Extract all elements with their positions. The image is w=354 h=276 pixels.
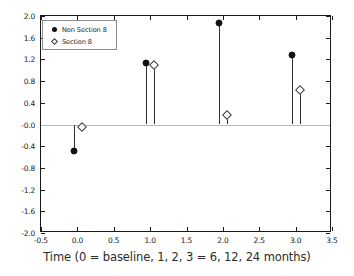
y-tick bbox=[41, 59, 45, 60]
x-tick-top bbox=[150, 16, 151, 20]
x-axis-title: Time (0 = baseline, 1, 2, 3 = 6, 12, 24 … bbox=[0, 250, 354, 264]
legend-item-non-section-8: Non Section 8 bbox=[48, 24, 112, 35]
data-stem bbox=[146, 63, 147, 124]
data-stem bbox=[219, 23, 220, 125]
legend-item-section-8: Section 8 bbox=[48, 36, 112, 47]
x-tick-label: 0.0 bbox=[72, 236, 83, 245]
y-tick-label: -2.0 bbox=[21, 229, 35, 238]
x-tick-top bbox=[187, 16, 188, 20]
x-tick-label: 0.5 bbox=[108, 236, 119, 245]
y-tick-right bbox=[326, 168, 330, 169]
chart-legend: Non Section 8 Section 8 bbox=[42, 20, 117, 50]
x-tick bbox=[41, 227, 42, 231]
x-tick-top bbox=[332, 16, 333, 20]
y-tick bbox=[41, 211, 45, 212]
y-tick-label: 1.6 bbox=[24, 33, 35, 42]
x-tick bbox=[259, 227, 260, 231]
x-tick bbox=[187, 227, 188, 231]
x-tick bbox=[114, 227, 115, 231]
data-stem bbox=[300, 90, 301, 124]
y-tick bbox=[41, 233, 45, 234]
x-tick bbox=[296, 227, 297, 231]
y-tick-right bbox=[326, 59, 330, 60]
x-tick-label: -0.5 bbox=[34, 236, 48, 245]
data-point-section-8[interactable] bbox=[295, 85, 305, 95]
filled-circle-icon bbox=[48, 24, 60, 35]
x-tick-label: 2.0 bbox=[217, 236, 228, 245]
y-tick bbox=[41, 168, 45, 169]
y-tick-label: 0.8 bbox=[24, 77, 35, 86]
y-tick-label: -1.2 bbox=[21, 185, 35, 194]
y-tick bbox=[41, 103, 45, 104]
y-tick-label: -0.0 bbox=[21, 120, 35, 129]
y-tick-label: -1.6 bbox=[21, 207, 35, 216]
data-stem bbox=[292, 55, 293, 124]
y-tick bbox=[41, 146, 45, 147]
y-tick-right bbox=[326, 233, 330, 234]
x-tick bbox=[223, 227, 224, 231]
x-tick-label: 1.5 bbox=[181, 236, 192, 245]
y-tick-right bbox=[326, 38, 330, 39]
x-tick-label: 1.0 bbox=[144, 236, 155, 245]
y-tick-label: -0.8 bbox=[21, 163, 35, 172]
y-tick bbox=[41, 81, 45, 82]
open-diamond-icon bbox=[48, 36, 60, 47]
x-tick-label: 3.5 bbox=[326, 236, 337, 245]
x-tick-top bbox=[259, 16, 260, 20]
x-tick-label: 2.5 bbox=[254, 236, 265, 245]
y-tick-right bbox=[326, 103, 330, 104]
data-point-section-8[interactable] bbox=[222, 110, 232, 120]
data-point-section-8[interactable] bbox=[150, 60, 160, 70]
data-point-non-section-8[interactable] bbox=[216, 19, 223, 26]
y-tick-right bbox=[326, 211, 330, 212]
x-tick-label: 3.0 bbox=[290, 236, 301, 245]
y-tick-right bbox=[326, 16, 330, 17]
x-tick bbox=[150, 227, 151, 231]
y-tick-right bbox=[326, 146, 330, 147]
y-tick-label: 1.2 bbox=[24, 55, 35, 64]
y-tick bbox=[41, 190, 45, 191]
y-tick-right bbox=[326, 190, 330, 191]
data-point-non-section-8[interactable] bbox=[70, 148, 77, 155]
x-tick-top bbox=[223, 16, 224, 20]
x-tick-top bbox=[296, 16, 297, 20]
y-tick-label: 0.4 bbox=[24, 98, 35, 107]
y-tick-right bbox=[326, 81, 330, 82]
chart-figure: 2.01.61.20.80.4-0.0-0.4-0.8-1.2-1.6-2.0 … bbox=[0, 0, 354, 276]
legend-label: Non Section 8 bbox=[62, 26, 107, 34]
y-tick-label: 2.0 bbox=[24, 12, 35, 21]
x-tick bbox=[332, 227, 333, 231]
y-tick-label: -0.4 bbox=[21, 142, 35, 151]
x-tick bbox=[77, 227, 78, 231]
data-stem bbox=[154, 65, 155, 124]
legend-label: Section 8 bbox=[62, 38, 92, 46]
data-point-non-section-8[interactable] bbox=[288, 52, 295, 59]
